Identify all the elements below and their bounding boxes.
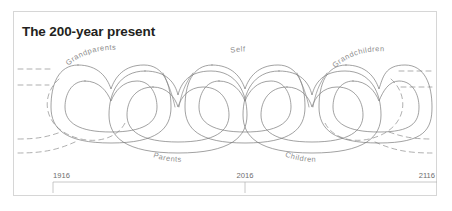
ring-label-grandparents: Grandparents: [64, 43, 117, 68]
ring-label-grandchildren: Grandchildren: [330, 44, 384, 69]
ring-label-self: Self: [230, 44, 246, 54]
chain-diagram: Grandparents Self Grandchildren Parents …: [13, 11, 437, 196]
ring-children: [243, 71, 381, 153]
axis-label-2016: 2016: [237, 171, 254, 180]
axis-label-1916: 1916: [53, 171, 70, 180]
ring-parents: [109, 71, 247, 153]
ring-grandparents: [51, 65, 171, 143]
ring-label-children: Children: [284, 150, 316, 164]
timeline-axis: [53, 182, 437, 193]
figure-canvas: The 200-year present: [0, 0, 452, 211]
dashed-continuation-right: [325, 71, 432, 153]
chain-diagram-svg: Grandparents Self Grandchildren Parents …: [13, 11, 437, 196]
axis-label-2116: 2116: [419, 171, 435, 180]
ring-self: [185, 65, 305, 143]
ring-grandchildren: [319, 65, 432, 143]
